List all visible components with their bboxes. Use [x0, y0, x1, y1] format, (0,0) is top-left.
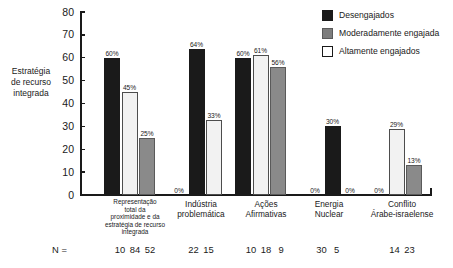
- n-value: 5: [329, 244, 344, 255]
- x-axis-category-label: AçõesAfirmativas: [230, 200, 302, 219]
- bar: [253, 55, 269, 195]
- category-label-line: problemática: [163, 210, 239, 220]
- bar-value-label: 25%: [133, 130, 161, 137]
- n-value: 10: [113, 244, 128, 255]
- bar: [189, 49, 205, 195]
- y-axis-tick-label: 50: [52, 75, 74, 85]
- x-axis-category-label: Indústriaproblemática: [163, 200, 239, 219]
- legend: DesengajadosModeradamente engajadaAltame…: [322, 8, 452, 62]
- bar-value-label: 0%: [336, 187, 364, 194]
- bar: [325, 126, 341, 195]
- bar-chart: Estratégia de recurso integrada 80706050…: [0, 0, 453, 268]
- n-value: 52: [143, 244, 158, 255]
- bar: [139, 138, 155, 195]
- n-group: 1423: [356, 244, 448, 255]
- category-label-line: Nuclear: [298, 210, 360, 220]
- legend-swatch: [322, 10, 333, 21]
- legend-item: Moderadamente engajada: [322, 26, 452, 42]
- n-value: 30: [314, 244, 329, 255]
- y-axis-tick-label: 70: [52, 29, 74, 39]
- n-group: 10189: [230, 244, 302, 255]
- bar-value-label: 13%: [400, 157, 428, 164]
- n-value: 84: [128, 244, 143, 255]
- n-value: 18: [259, 244, 274, 255]
- bar: [122, 92, 138, 195]
- legend-item: Altamente engajados: [322, 44, 452, 60]
- legend-label: Moderadamente engajada: [339, 28, 439, 39]
- x-axis-category-label: ConflitoÁrabe-israelense: [356, 200, 448, 219]
- y-axis-tick-label: 20: [52, 144, 74, 154]
- bar-value-label: 30%: [319, 118, 347, 125]
- bar-value-label: 29%: [383, 121, 411, 128]
- x-axis-category-label: EnergiaNuclear: [298, 200, 360, 219]
- legend-swatch: [322, 28, 333, 39]
- bar: [270, 67, 286, 195]
- bar-value-label: 64%: [183, 41, 211, 48]
- n-value: 15: [201, 244, 216, 255]
- bar-value-label: 45%: [116, 84, 144, 91]
- y-axis-tick-label: 80: [52, 7, 74, 17]
- bar-value-label: 60%: [98, 50, 126, 57]
- legend-item: Desengajados: [322, 8, 452, 24]
- n-value: 10: [244, 244, 259, 255]
- category-label-line: Afirmativas: [230, 210, 302, 220]
- bar: [104, 58, 120, 195]
- category-label-line: integrada: [92, 228, 178, 236]
- n-row-prefix: N =: [52, 244, 67, 255]
- n-value: 22: [186, 244, 201, 255]
- legend-label: Altamente engajados: [339, 46, 420, 57]
- legend-swatch: [322, 46, 333, 57]
- legend-label: Desengajados: [339, 10, 394, 21]
- bar: [235, 58, 251, 195]
- y-axis-tick-label: 0: [52, 190, 74, 200]
- y-axis-tick-label: 10: [52, 167, 74, 177]
- bar-value-label: 33%: [200, 112, 228, 119]
- y-axis-tick-label: 60: [52, 52, 74, 62]
- n-group: 2215: [163, 244, 239, 255]
- category-label-line: estratégia de recurso: [92, 221, 178, 229]
- bar: [406, 165, 422, 195]
- bar-value-label: 61%: [247, 47, 275, 54]
- n-value: 14: [387, 244, 402, 255]
- bar: [206, 120, 222, 195]
- y-axis-tick-label: 40: [52, 98, 74, 108]
- n-group: 305: [298, 244, 360, 255]
- bar-value-label: 56%: [264, 59, 292, 66]
- category-label-line: Árabe-israelense: [356, 210, 448, 220]
- n-value: 23: [402, 244, 417, 255]
- y-axis-tick-label: 30: [52, 121, 74, 131]
- n-value: 9: [274, 244, 289, 255]
